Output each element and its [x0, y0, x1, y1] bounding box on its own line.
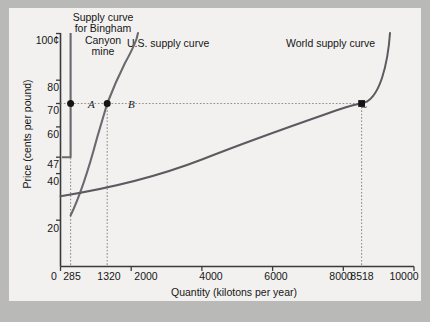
chart-plot-area	[9, 8, 421, 301]
data-point-A	[67, 100, 74, 107]
curve-world-supply	[61, 33, 391, 196]
curve-bingham-canyon	[62, 33, 71, 157]
data-point-C	[358, 100, 365, 107]
axis-lines	[61, 33, 415, 267]
data-point-B	[104, 100, 111, 107]
guide-lines	[61, 104, 362, 267]
figure-panel: Price (cents per pound) 100¢ 80 70 60 47…	[9, 8, 421, 301]
